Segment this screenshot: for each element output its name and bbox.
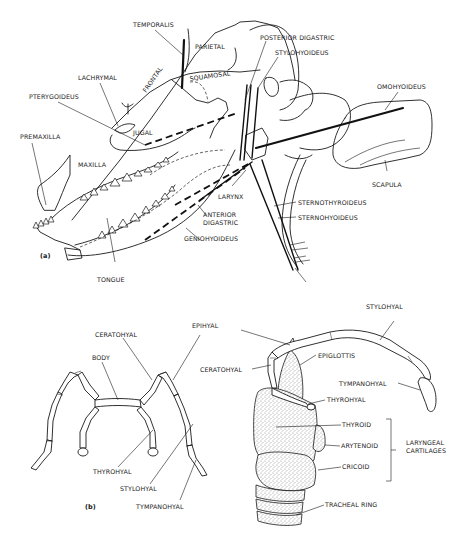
label-sternothyroideus: STERNOTHYROIDEUS	[298, 199, 367, 206]
label-thyrohyal-right: THYROHYAL	[326, 396, 366, 403]
left-epihyal	[58, 372, 78, 395]
label-ceratohyal-right: CERATOHYAL	[200, 366, 242, 373]
label-sternohyoideus: STERNOHYOIDEUS	[298, 214, 358, 221]
label-tympanohyal-left: TYMPANOHYAL	[135, 503, 184, 510]
pterygoideus-dashed	[145, 113, 237, 145]
right-ceratohyal-b	[268, 352, 278, 388]
parietal-line	[185, 29, 189, 72]
label-lachrymal: LACHRYMAL	[78, 74, 117, 81]
label-temporalis: TEMPORALIS	[132, 21, 174, 28]
anatomical-figure: TEMPORALIS PARIETAL FRONTAL SQUAMOSAL LA…	[0, 0, 468, 541]
label-geniohyoideus: GENIOHYOIDEUS	[184, 235, 238, 242]
label-stylohyal-left: STYLOHYAL	[120, 485, 157, 492]
label-thyrohyal-left: THYROHYAL	[92, 468, 132, 475]
cricoid-cartilage	[256, 452, 316, 491]
label-pterygoideus: PTERYGOIDEUS	[29, 93, 79, 100]
left-ceratohyal	[78, 372, 99, 400]
label-ceratohyal-left: CERATOHYAL	[95, 331, 137, 338]
label-stylohyoideus: STYLOHYOIDEUS	[275, 49, 329, 56]
incisors	[33, 216, 54, 228]
squamosal-dash	[190, 82, 208, 102]
squamosal-region	[172, 80, 228, 138]
orbit-curve	[122, 103, 133, 107]
label-tongue: TONGUE	[96, 276, 125, 283]
laryngeal-bracket	[386, 419, 391, 481]
label-jugal: JUGAL	[132, 129, 153, 137]
left-stylohyal	[47, 392, 62, 441]
label-maxilla: MAXILLA	[78, 161, 107, 168]
label-parietal: PARIETAL	[195, 43, 225, 50]
label-frontal: FRONTAL	[141, 65, 164, 94]
posterior-digastric-muscle	[240, 85, 247, 160]
right-epihyal	[158, 372, 178, 396]
omohyoideus-muscle	[256, 108, 403, 148]
label-scapula: SCAPULA	[372, 181, 402, 188]
left-tympanohyal	[31, 440, 52, 470]
temporalis-muscle	[182, 40, 184, 88]
left-thyrohyal-tip	[78, 448, 88, 456]
right-thyrohyal-tip	[148, 448, 158, 456]
panel-a-skull-muscles: TEMPORALIS PARIETAL FRONTAL SQUAMOSAL LA…	[20, 21, 432, 283]
atlas-outline	[280, 80, 313, 121]
label-epiglottis: EPIGLOTTIS	[318, 352, 355, 359]
scapula-ridge	[360, 148, 420, 165]
right-tympanohyal-b	[418, 378, 436, 412]
label-laryngeal-line2: CARTILAGES	[406, 447, 446, 454]
label-premaxilla: PREMAXILLA	[20, 133, 61, 140]
label-larynx: LARYNX	[218, 193, 244, 200]
label-epihyal: EPIHYAL	[192, 322, 219, 329]
left-thyrohyal	[80, 407, 99, 448]
label-squamosal: SQUAMOSAL	[189, 69, 231, 82]
snout-lower	[35, 225, 80, 250]
chin-incisors	[65, 248, 82, 260]
hyoid-larynx-a	[245, 128, 268, 160]
label-cricoid: CRICOID	[342, 463, 369, 470]
sternothyroideus-muscle	[250, 164, 293, 270]
label-thyroid: THYROID	[341, 421, 371, 428]
panel-b-right-larynx: EPIHYAL CERATOHYAL STYLOHYAL EPIGLOTTIS …	[192, 303, 446, 525]
label-body: BODY	[92, 354, 110, 361]
label-arytenoid: ARYTENOID	[341, 442, 378, 449]
label-tracheal-ring: TRACHEAL RING	[324, 501, 377, 508]
label-stylohyal-right: STYLOHYAL	[366, 303, 403, 310]
label-posterior-digastric: POSTERIOR DIGASTRIC	[260, 34, 335, 41]
sternum-tail	[295, 268, 306, 282]
neck-outline	[290, 93, 350, 150]
posterior-digastric-muscle-2	[244, 85, 251, 160]
panel-a-leaders	[32, 30, 398, 262]
premaxilla-outline	[37, 155, 70, 210]
label-tympanohyal-right: TYMPANOHYAL	[338, 380, 387, 387]
lower-teeth	[98, 186, 175, 238]
panel-b-left-hyoid: CERATOHYAL BODY THYROHYAL STYLOHYAL TYMP…	[31, 331, 207, 511]
panel-b-tag: (b)	[85, 503, 96, 511]
right-thyrohyal	[137, 407, 156, 448]
bulla	[264, 77, 279, 96]
label-anterior-digastric-line1: ANTERIOR	[203, 211, 237, 218]
right-tympanohyal	[187, 445, 207, 476]
thyrohyal-knob	[307, 404, 315, 410]
frontal-suture	[112, 70, 260, 128]
label-laryngeal-line1: LARYNGEAL	[406, 439, 444, 446]
label-omohyoideus: OMOHYOIDEUS	[377, 83, 426, 90]
parietal-curve	[228, 48, 236, 70]
scapula-outline	[333, 100, 432, 168]
panel-a-tag: (a)	[40, 252, 51, 260]
label-anterior-digastric-line2: DIGASTRIC	[203, 219, 239, 226]
sternohyoideus-muscle	[262, 160, 298, 270]
right-ceratohyal	[140, 375, 162, 405]
